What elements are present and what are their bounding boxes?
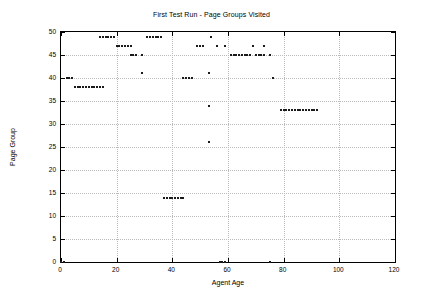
y-axis-tick-mark — [391, 193, 395, 194]
data-point — [305, 109, 307, 111]
y-axis-tick-mark — [61, 170, 65, 171]
y-axis-tick-mark — [391, 262, 395, 263]
data-point — [285, 109, 287, 111]
data-point — [146, 36, 148, 38]
data-point — [113, 36, 115, 38]
data-point — [299, 109, 301, 111]
data-point — [68, 77, 70, 79]
y-axis-tick-mark — [61, 55, 65, 56]
gridline-vertical — [228, 32, 229, 262]
gridline-vertical — [117, 32, 118, 262]
data-point — [160, 36, 162, 38]
data-point — [185, 77, 187, 79]
data-point — [121, 45, 123, 47]
data-point — [272, 77, 274, 79]
y-axis-tick-mark — [391, 55, 395, 56]
x-axis-tick-mark — [339, 258, 340, 262]
x-axis-tick-mark — [284, 32, 285, 36]
data-point — [238, 54, 240, 56]
data-point — [269, 261, 271, 263]
data-point — [221, 261, 223, 263]
data-point — [132, 54, 134, 56]
x-axis-tick-mark — [284, 258, 285, 262]
data-point — [155, 36, 157, 38]
data-point — [294, 109, 296, 111]
data-point — [182, 77, 184, 79]
data-point — [85, 86, 87, 88]
data-point — [66, 77, 68, 79]
x-axis-tick-label: 40 — [151, 266, 191, 273]
data-point — [297, 109, 299, 111]
data-point — [141, 54, 143, 56]
data-point — [244, 54, 246, 56]
data-point — [313, 109, 315, 111]
y-axis-tick-mark — [61, 124, 65, 125]
data-point — [127, 45, 129, 47]
data-point — [224, 45, 226, 47]
x-axis-tick-mark — [172, 32, 173, 36]
data-point — [130, 54, 132, 56]
data-point — [246, 54, 248, 56]
y-axis-tick-label: 25 — [4, 143, 56, 150]
y-axis-tick-mark — [61, 239, 65, 240]
data-point — [177, 197, 179, 199]
x-axis-tick-label: 0 — [40, 266, 80, 273]
y-axis-tick-label: 30 — [4, 120, 56, 127]
data-point — [174, 197, 176, 199]
y-axis-tick-mark — [391, 216, 395, 217]
data-point — [191, 77, 193, 79]
data-point — [180, 197, 182, 199]
data-point — [118, 45, 120, 47]
x-axis-tick-labels: 020406080100120 — [60, 266, 396, 278]
data-point — [188, 77, 190, 79]
plot-area — [60, 31, 396, 263]
data-point — [235, 54, 237, 56]
y-axis-tick-mark — [391, 78, 395, 79]
data-point — [102, 36, 104, 38]
data-point — [135, 54, 137, 56]
data-point — [74, 86, 76, 88]
x-axis-tick-mark — [395, 32, 396, 36]
x-axis-tick-mark — [172, 258, 173, 262]
data-point — [216, 45, 218, 47]
data-point — [163, 197, 165, 199]
data-point — [141, 72, 143, 74]
y-axis-tick-label: 10 — [4, 212, 56, 219]
y-axis-tick-mark — [61, 193, 65, 194]
gridline-vertical — [339, 32, 340, 262]
y-axis-tick-label: 45 — [4, 51, 56, 58]
x-axis-tick-mark — [61, 32, 62, 36]
x-axis-tick-mark — [395, 258, 396, 262]
x-axis-tick-mark — [339, 32, 340, 36]
data-point — [252, 45, 254, 47]
x-axis-tick-label: 20 — [96, 266, 136, 273]
data-point — [316, 109, 318, 111]
data-point — [255, 54, 257, 56]
data-point — [249, 54, 251, 56]
y-axis-tick-mark — [391, 124, 395, 125]
data-point — [269, 54, 271, 56]
x-axis-tick-mark — [117, 32, 118, 36]
data-point — [130, 45, 132, 47]
data-point — [82, 86, 84, 88]
data-point — [311, 109, 313, 111]
data-point — [124, 45, 126, 47]
y-axis-tick-mark — [61, 216, 65, 217]
data-point — [149, 36, 151, 38]
data-point — [224, 261, 226, 263]
x-axis-tick-label: 120 — [374, 266, 414, 273]
y-axis-tick-mark — [61, 147, 65, 148]
data-point — [260, 54, 262, 56]
gridline-vertical — [172, 32, 173, 262]
y-axis-tick-label: 20 — [4, 166, 56, 173]
data-point — [302, 109, 304, 111]
gridline-vertical — [284, 32, 285, 262]
data-point — [91, 86, 93, 88]
data-point — [105, 36, 107, 38]
data-point — [116, 45, 118, 47]
y-axis-tick-mark — [391, 239, 395, 240]
data-point — [208, 141, 210, 143]
data-point — [280, 109, 282, 111]
data-point — [283, 109, 285, 111]
y-axis-tick-label: 40 — [4, 74, 56, 81]
